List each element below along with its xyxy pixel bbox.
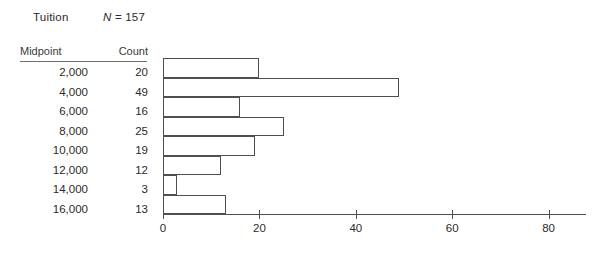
x-tick bbox=[356, 210, 357, 219]
bar bbox=[163, 117, 284, 137]
x-tick-label: 60 bbox=[446, 222, 459, 234]
x-tick bbox=[259, 210, 260, 219]
histogram-figure: Tuition N = 157 Midpoint Count 2,000 20 … bbox=[0, 0, 610, 258]
bar bbox=[163, 156, 221, 176]
bar bbox=[163, 58, 259, 78]
x-tick-label: 0 bbox=[160, 222, 166, 234]
x-tick-label: 80 bbox=[542, 222, 555, 234]
x-axis bbox=[163, 214, 586, 215]
bar bbox=[163, 136, 255, 156]
bar bbox=[163, 78, 399, 98]
bar-chart: 020406080 bbox=[0, 0, 610, 258]
bar bbox=[163, 175, 177, 195]
x-tick-label: 40 bbox=[349, 222, 362, 234]
x-tick bbox=[163, 210, 164, 219]
x-tick bbox=[452, 210, 453, 219]
bar bbox=[163, 195, 226, 215]
x-tick-label: 20 bbox=[253, 222, 266, 234]
x-tick bbox=[549, 210, 550, 219]
bar bbox=[163, 97, 240, 117]
